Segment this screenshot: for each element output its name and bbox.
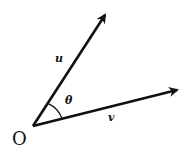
angle-arc (48, 103, 63, 118)
vector-u-line (33, 15, 105, 126)
angle-theta-label: θ (65, 94, 73, 107)
origin-label: O (12, 128, 27, 149)
vector-angle-diagram: O u v θ (0, 0, 190, 154)
vector-v-label: v (108, 111, 115, 124)
vector-u-label: u (55, 52, 63, 65)
